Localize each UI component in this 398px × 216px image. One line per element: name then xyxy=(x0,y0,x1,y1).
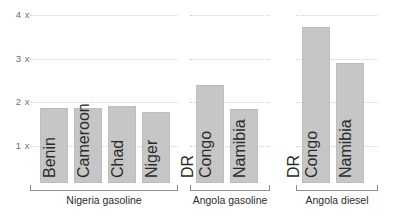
bar-category-label: Cameroon xyxy=(75,103,93,178)
bar-category-label: Niger xyxy=(143,140,161,178)
y-axis-tick-label: 1 x xyxy=(8,140,30,151)
bar-category-label: DR Congo xyxy=(285,131,321,178)
bar-category-label: Chad xyxy=(109,140,127,178)
group-bracket xyxy=(190,185,270,191)
gridline xyxy=(30,102,178,103)
gridline xyxy=(190,59,270,60)
bar-category-label: Benin xyxy=(41,137,59,178)
group-bracket xyxy=(296,185,378,191)
bar: Niger xyxy=(142,112,170,183)
bar: Cameroon xyxy=(74,108,102,183)
bar-chart: 4 x3 x2 x1 xBeninCameroonChadNigerNigeri… xyxy=(0,0,398,216)
plot-area: 4 x3 x2 x1 xBeninCameroonChadNigerNigeri… xyxy=(0,0,398,216)
group-label: Angola diesel xyxy=(257,194,398,206)
gridline xyxy=(190,15,270,16)
bar: DR Congo xyxy=(196,85,224,183)
bar: Namibia xyxy=(336,63,364,183)
bar-category-label: DR Congo xyxy=(179,131,215,178)
bar: Chad xyxy=(108,106,136,183)
bar: Benin xyxy=(40,108,68,183)
group-bracket xyxy=(30,185,178,191)
y-axis-tick-label: 3 x xyxy=(8,53,30,64)
y-axis-tick-label: 4 x xyxy=(8,9,30,20)
gridline xyxy=(296,15,378,16)
y-axis-tick-label: 2 x xyxy=(8,96,30,107)
bar-category-label: Namibia xyxy=(337,119,355,178)
bar-category-label: Namibia xyxy=(231,119,249,178)
bar: Namibia xyxy=(230,109,258,183)
bar: DR Congo xyxy=(302,27,330,183)
gridline xyxy=(30,15,178,16)
gridline xyxy=(30,59,178,60)
